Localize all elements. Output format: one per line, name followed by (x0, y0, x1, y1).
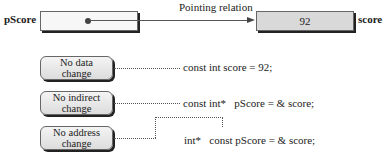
box-label-line1: No indirect (41, 92, 112, 103)
box-label-line1: No address (41, 127, 112, 138)
box-label-line2: change (41, 103, 112, 114)
connector-line-drop (222, 117, 223, 127)
box-label-line1: No data (41, 57, 112, 68)
no-indirect-change-box: No indirect change (40, 91, 113, 115)
pointer-dot-icon (85, 18, 91, 24)
pointing-line (90, 20, 248, 21)
pointer-name-label: pScore (4, 13, 36, 25)
box-label-line2: change (41, 138, 112, 149)
arrow-head-icon (247, 17, 255, 23)
box-label-line2: change (41, 68, 112, 79)
connector-line-vertical (155, 117, 156, 138)
score-value-box: 92 (256, 11, 354, 31)
score-name-label: score (358, 13, 382, 25)
connector-line (114, 103, 180, 104)
no-data-change-box: No data change (40, 56, 113, 80)
no-address-change-box: No address change (40, 126, 113, 150)
pointing-relation-label: Pointing relation (179, 1, 253, 13)
code-const-pointer: int* const pScore = & score; (184, 134, 315, 146)
code-const-pointee: const int* pScore = & score; (183, 97, 314, 109)
code-const-data: const int score = 92; (183, 61, 272, 73)
connector-line-top (155, 117, 223, 118)
connector-line (114, 138, 156, 139)
connector-line (114, 68, 180, 69)
